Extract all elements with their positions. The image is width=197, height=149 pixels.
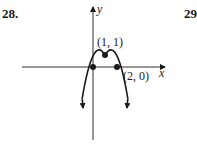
y-axis-label: y — [96, 2, 103, 16]
point-origin — [90, 64, 96, 70]
vertex-label: (1, 1) — [97, 35, 123, 49]
x-axis-label: x — [158, 66, 165, 80]
point-x-intercept — [114, 64, 120, 70]
x-intercept-label: (2, 0) — [123, 69, 149, 83]
graph: y x (1, 1) (2, 0) — [0, 0, 197, 149]
point-vertex — [102, 52, 108, 58]
